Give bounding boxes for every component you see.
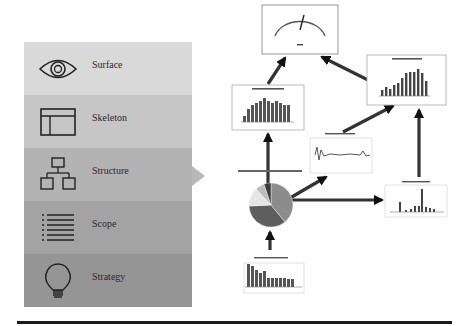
dashboard-flow-diagram: [0, 0, 470, 326]
workforce-headcount-chart: [244, 257, 304, 293]
measured-head-count-chart: [232, 85, 304, 130]
gauge-chart: [262, 5, 338, 54]
growth-in-headcount-chart: [310, 133, 372, 173]
performance-dashboard-chart: [367, 55, 446, 105]
bottom-rule: [17, 321, 452, 324]
spend-value-chart: [385, 181, 447, 217]
